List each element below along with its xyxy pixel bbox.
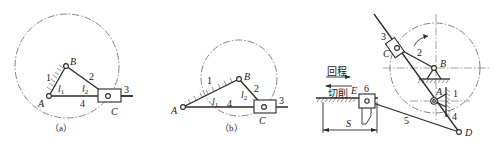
joint-E-c bbox=[365, 99, 369, 103]
label-B-b: B bbox=[244, 71, 250, 82]
caption-a: （a） bbox=[50, 123, 72, 133]
link5-c bbox=[367, 101, 459, 132]
link-number-3-b: 3 bbox=[279, 95, 284, 106]
cutting-tool bbox=[362, 108, 371, 124]
link-number-5-c: 5 bbox=[404, 115, 409, 126]
joint-D-c bbox=[457, 130, 462, 135]
link-number-1-a: 1 bbox=[46, 72, 51, 83]
link-number-2-a: 2 bbox=[89, 71, 94, 82]
guide-rod-c bbox=[374, 14, 459, 132]
label-C-a: C bbox=[111, 106, 118, 117]
label-D-c: D bbox=[464, 127, 473, 138]
joint-C-b bbox=[262, 105, 267, 110]
link-number-4-c: 4 bbox=[452, 111, 457, 122]
panel-b: A B C 1 2 3 4 l1 l2 （b） bbox=[170, 40, 288, 133]
label-E-c: E bbox=[350, 85, 357, 96]
label-B-c: B bbox=[440, 58, 446, 69]
caption-b: （b） bbox=[220, 123, 243, 133]
link-number-3-a: 3 bbox=[124, 84, 129, 95]
label-S: S bbox=[346, 118, 351, 129]
joint-B-b bbox=[237, 77, 242, 82]
label-A-b: A bbox=[170, 105, 178, 116]
label-cutting-stroke: 切削 bbox=[328, 87, 348, 99]
label-C-c: C bbox=[383, 48, 390, 59]
dimension-arrow-right bbox=[371, 128, 377, 132]
link-number-1-c: 1 bbox=[453, 88, 458, 99]
linkage-mechanism-diagram: A B C 1 2 3 4 l1 l2 （a） A B C 1 bbox=[0, 0, 503, 150]
joint-C-a bbox=[106, 94, 111, 99]
link-number-2-b: 2 bbox=[254, 83, 259, 94]
rotation-arrowhead bbox=[423, 34, 428, 39]
label-return-stroke: 回程 bbox=[327, 66, 347, 77]
link-number-4-b: 4 bbox=[227, 98, 232, 109]
length-l2-b: l2 bbox=[241, 89, 248, 102]
joint-A-a bbox=[47, 94, 52, 99]
link-number-6-c: 6 bbox=[364, 83, 369, 94]
label-B-a: B bbox=[70, 56, 76, 67]
link-number-2-c: 2 bbox=[417, 47, 422, 58]
label-A-a: A bbox=[37, 98, 45, 109]
joint-C-c bbox=[395, 46, 400, 51]
joint-A-c-inner bbox=[433, 100, 436, 103]
panel-c: 回程 切削 E 6 S 5 3 C 2 B A 1 4 D bbox=[316, 14, 490, 138]
dimension-arrow-left bbox=[323, 128, 329, 132]
joint-B-a bbox=[64, 64, 69, 69]
label-A-c: A bbox=[435, 86, 443, 97]
joint-A-b bbox=[181, 105, 186, 110]
length-l2-a: l2 bbox=[82, 83, 89, 96]
length-l1-a: l1 bbox=[58, 83, 65, 96]
panel-a: A B C 1 2 3 4 l1 l2 （a） bbox=[15, 14, 133, 133]
joint-B-c bbox=[432, 66, 437, 71]
link-number-1-b: 1 bbox=[207, 75, 212, 86]
link-number-3-c: 3 bbox=[381, 31, 386, 42]
label-C-b: C bbox=[259, 115, 266, 126]
link-number-4-a: 4 bbox=[80, 98, 85, 109]
